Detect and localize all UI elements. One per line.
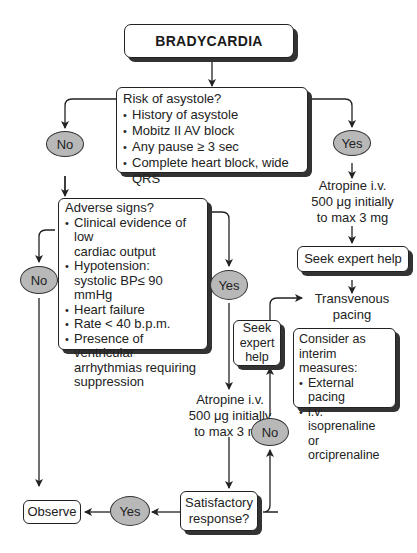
seek-expert-help-middle-box: Seek expert help: [233, 320, 281, 366]
risk-item: Mobitz II AV block: [123, 123, 301, 139]
item-line: Hypotension:: [74, 258, 150, 273]
item-line: i.v. isoprenaline: [308, 405, 375, 434]
adverse-item: Hypotension:systolic BP≤ 90 mmHg: [65, 259, 201, 303]
title-box: BRADYCARDIA: [124, 24, 294, 58]
text-line: Seek: [234, 321, 280, 336]
response-no-oval: No: [251, 418, 289, 446]
risk-of-asystole-box: Risk of asystole? History of asystole Mo…: [116, 87, 308, 173]
seek-expert-help-box: Seek expert help: [297, 246, 409, 272]
response-yes-oval: Yes: [110, 496, 150, 526]
observe-box: Observe: [23, 500, 81, 524]
transvenous-pacing-text: Transvenous pacing: [302, 291, 402, 323]
text-line: expert: [234, 336, 280, 351]
atropine-line: Atropine i.v.: [184, 392, 276, 408]
risk-no-oval: No: [46, 131, 84, 157]
text-line: Satisfactory: [181, 495, 257, 511]
adverse-item: Clinical evidence of lowcardiac output: [65, 216, 201, 260]
interim-item: External pacing: [299, 376, 390, 405]
response-text: Satisfactory response?: [181, 495, 257, 527]
title-text: BRADYCARDIA: [125, 25, 293, 57]
atropine-line: 500 μg initially: [295, 194, 410, 210]
item-line: arrhythmias requiring: [74, 360, 196, 375]
observe-text: Observe: [24, 501, 80, 523]
seek-help-middle-text: Seek expert help: [234, 321, 280, 365]
risk-heading: Risk of asystole?: [123, 91, 301, 107]
satisfactory-response-box: Satisfactory response?: [180, 491, 258, 531]
transvenous-line: Transvenous: [302, 291, 402, 307]
risk-item: Any pause ≥ 3 sec: [123, 139, 301, 155]
item-line: cardiac output: [74, 244, 156, 259]
adverse-signs-list: Clinical evidence of lowcardiac output H…: [65, 216, 201, 390]
adverse-no-oval: No: [20, 266, 58, 294]
transvenous-line: pacing: [302, 307, 402, 323]
risk-yes-oval: Yes: [333, 130, 371, 156]
item-line: suppression: [74, 374, 144, 389]
item-line: or orciprenaline: [308, 434, 380, 463]
risk-item: History of asystole: [123, 107, 301, 123]
bradycardia-flowchart: BRADYCARDIA Risk of asystole? History of…: [0, 0, 417, 553]
atropine-line: Atropine i.v.: [295, 178, 410, 194]
text-line: Consider as: [299, 332, 390, 347]
atropine-right-text: Atropine i.v. 500 μg initially to max 3 …: [295, 178, 410, 226]
interim-measures-box: Consider as interim measures: External p…: [293, 328, 396, 408]
adverse-item: Rate < 40 b.p.m.: [65, 317, 201, 332]
adverse-item: Heart failure: [65, 303, 201, 318]
adverse-yes-oval: Yes: [210, 270, 248, 300]
item-line: Clinical evidence of low: [74, 215, 186, 245]
risk-criteria-list: History of asystole Mobitz II AV block A…: [123, 107, 301, 187]
atropine-line: to max 3 mg: [295, 210, 410, 226]
risk-item: Complete heart block, wide QRS: [123, 155, 301, 187]
seek-help-text: Seek expert help: [298, 247, 408, 271]
item-line: Presence of ventricular: [74, 331, 143, 361]
interim-heading: Consider as interim measures:: [299, 332, 390, 376]
interim-measures-list: External pacing i.v. isoprenalineor orci…: [299, 376, 390, 463]
text-line: help: [234, 350, 280, 365]
text-line: interim measures:: [299, 347, 390, 376]
adverse-item: Presence of ventriculararrhythmias requi…: [65, 332, 201, 390]
text-line: response?: [181, 511, 257, 527]
adverse-signs-box: Adverse signs? Clinical evidence of lowc…: [58, 198, 208, 350]
interim-item: i.v. isoprenalineor orciprenaline: [299, 405, 390, 463]
item-line: systolic BP≤ 90 mmHg: [74, 273, 163, 303]
adverse-heading: Adverse signs?: [65, 201, 201, 216]
